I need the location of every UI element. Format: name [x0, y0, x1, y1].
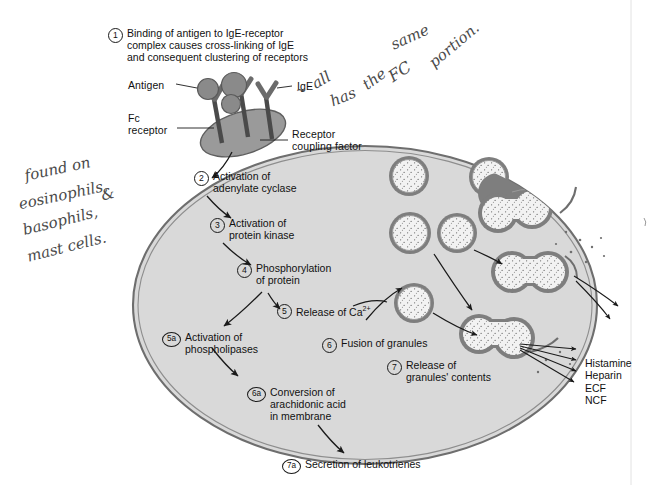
step-1-number: 1	[108, 28, 123, 43]
antigen-label: Antigen	[128, 79, 164, 91]
step-3-label: Activation of protein kinase	[229, 217, 294, 241]
step-4-label: Phosphorylation of protein	[256, 262, 331, 286]
step-5a-label: Activation of phospholipases	[185, 331, 258, 355]
antigen-particles	[198, 73, 247, 114]
receptor-coupling-factor-label: Receptor coupling factor	[292, 128, 362, 152]
step-7a-number: 7a	[282, 459, 301, 474]
leader-ige	[277, 86, 292, 88]
step-6a: 6a Conversion of arachidonic acid in mem…	[247, 386, 346, 423]
step-6a-label: Conversion of arachidonic acid in membra…	[270, 386, 346, 423]
step-2-label: Activation of adenylate cyclase	[213, 170, 296, 194]
step-5-label: Release of Ca2+	[296, 303, 371, 318]
stray-pencil-mark	[644, 218, 646, 226]
step-6-number: 6	[322, 338, 337, 353]
calcium-charge-superscript: 2+	[363, 305, 371, 312]
handwriting-tilde: ~	[296, 83, 306, 97]
step-7-number: 7	[387, 360, 402, 375]
step-7a-label: Secretion of leukotrienes	[305, 458, 421, 470]
step-5-number: 5	[277, 304, 292, 319]
step-4-number: 4	[237, 263, 252, 278]
step-2-number: 2	[194, 171, 209, 186]
step-3: 3 Activation of protein kinase	[210, 217, 294, 241]
step-1-label: Binding of antigen to IgE-receptor compl…	[127, 27, 308, 64]
step-6: 6 Fusion of granules	[322, 337, 427, 353]
step-5-text: Release of Ca	[296, 306, 363, 318]
step-5a-number: 5a	[162, 332, 181, 347]
step-5: 5 Release of Ca2+	[277, 303, 371, 319]
step-6a-number: 6a	[247, 387, 266, 402]
step-7: 7 Release of granules' contents	[387, 359, 491, 383]
granule	[437, 213, 477, 253]
step-6-label: Fusion of granules	[341, 337, 427, 349]
step-2: 2 Activation of adenylate cyclase	[194, 170, 296, 194]
step-4: 4 Phosphorylation of protein	[237, 262, 331, 286]
step-1: 1 Binding of antigen to IgE-receptor com…	[108, 27, 308, 64]
granule	[389, 212, 431, 254]
step-3-number: 3	[210, 218, 225, 233]
leader-antigen	[176, 84, 197, 88]
granule	[389, 156, 429, 196]
step-7a: 7a Secretion of leukotrienes	[282, 458, 421, 474]
fc-receptor-label: Fc receptor	[128, 112, 167, 136]
ige-receptor-complex	[176, 73, 292, 166]
step-7-label: Release of granules' contents	[406, 359, 491, 383]
mediators-list: Histamine Heparin ECF NCF	[585, 357, 632, 407]
step-5a: 5a Activation of phospholipases	[162, 331, 258, 355]
figure-canvas: 1 Binding of antigen to IgE-receptor com…	[0, 0, 671, 485]
